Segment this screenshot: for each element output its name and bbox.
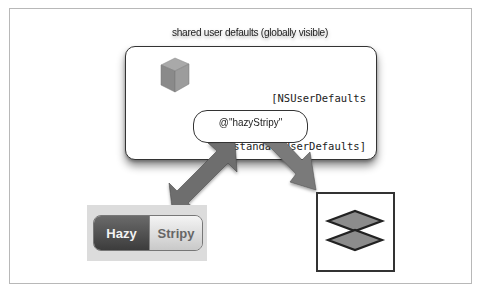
layers-view-box xyxy=(316,192,395,272)
key-label: @"hazyStripy" xyxy=(199,116,303,128)
segment-hazy[interactable]: Hazy xyxy=(94,216,149,250)
stacked-diamonds-icon xyxy=(318,194,393,270)
code-line-1: [NSUserDefaults xyxy=(216,90,366,106)
segmented-control[interactable]: Hazy Stripy xyxy=(93,215,203,251)
diagram-title: shared user defaults (globally visible) xyxy=(144,26,355,38)
segment-stripy[interactable]: Stripy xyxy=(149,216,202,250)
cube-icon xyxy=(157,55,193,95)
